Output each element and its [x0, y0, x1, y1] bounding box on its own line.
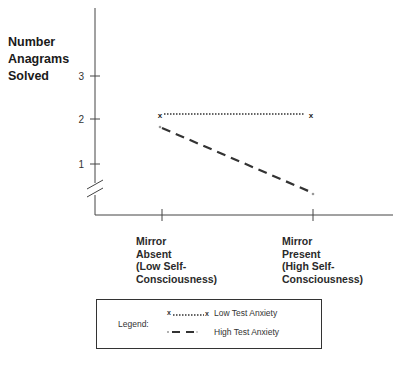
legend-box: Legend: x x Low Test Anxiety High Test A…	[96, 299, 322, 349]
x-marker-icon: x	[158, 111, 163, 120]
legend-title: Legend:	[118, 319, 149, 329]
legend-label: High Test Anxiety	[214, 327, 279, 337]
series-high-test-anxiety	[159, 126, 315, 196]
series-line-dashed	[162, 128, 313, 193]
x-category-line: Mirror	[136, 235, 217, 248]
x-category-label: Mirror Present (High Self- Consciousness…	[282, 235, 363, 285]
x-category-line: Absent	[136, 248, 217, 261]
svg-text:x: x	[167, 309, 171, 316]
dot-marker-icon	[159, 126, 162, 129]
series-low-test-anxiety: x x	[158, 111, 314, 120]
legend-label: Low Test Anxiety	[214, 308, 277, 318]
x-category-line: Consciousness)	[136, 273, 217, 286]
y-tick-label: 2	[78, 114, 84, 125]
svg-text:x: x	[205, 310, 209, 317]
x-category-line: Consciousness)	[282, 273, 363, 286]
x-category-line: (Low Self-	[136, 260, 217, 273]
x-category-line: Present	[282, 248, 363, 261]
legend-swatch-dashed-dot-icon	[166, 326, 212, 338]
y-tick-label: 3	[78, 71, 84, 82]
x-marker-icon: x	[309, 111, 314, 120]
x-category-line: Mirror	[282, 235, 363, 248]
legend-swatch-dotted-x-icon: x x	[166, 307, 212, 319]
x-category-label: Mirror Absent (Low Self- Consciousness)	[136, 235, 217, 285]
x-category-line: (High Self-	[282, 260, 363, 273]
y-tick-label: 1	[78, 159, 84, 170]
dot-marker-icon	[312, 193, 315, 196]
